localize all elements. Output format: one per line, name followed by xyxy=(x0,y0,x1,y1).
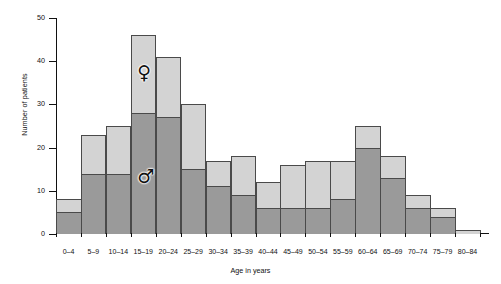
y-axis-tick-label: 0 xyxy=(0,229,45,238)
bar-segment-female xyxy=(56,199,82,213)
bar-segment-male xyxy=(156,117,182,234)
x-axis-tick xyxy=(330,233,331,237)
bar-segment-female xyxy=(256,182,282,209)
x-axis-tick xyxy=(455,233,456,237)
x-axis-tick-label: 60–64 xyxy=(355,248,380,255)
x-axis-tick-label: 25–29 xyxy=(181,248,206,255)
y-axis-tick-label: 20 xyxy=(0,143,45,152)
bar-segment-male xyxy=(81,174,107,234)
x-axis-tick-label: 35–39 xyxy=(231,248,256,255)
bar-5-9 xyxy=(81,135,107,234)
histogram-figure: Number of patients 01020304050 0–45–910–… xyxy=(0,0,501,284)
bar-segment-male xyxy=(305,208,331,234)
x-axis-tick xyxy=(256,233,257,237)
bar-55-59 xyxy=(330,161,356,234)
bar-40-44 xyxy=(256,182,282,234)
bar-75-79 xyxy=(430,208,456,234)
x-axis-tick xyxy=(106,233,107,237)
bar-25-29 xyxy=(181,104,207,234)
bar-segment-female xyxy=(206,161,232,188)
x-axis-tick xyxy=(206,233,207,237)
female-symbol: ♀ xyxy=(137,63,151,82)
bar-segment-female xyxy=(231,156,257,196)
x-axis-tick-label: 80–84 xyxy=(455,248,480,255)
bar-60-64 xyxy=(355,126,381,234)
x-axis-tick xyxy=(305,233,306,237)
x-axis-tick-label: 20–24 xyxy=(156,248,181,255)
x-axis-tick xyxy=(405,233,406,237)
bar-segment-female xyxy=(405,195,431,209)
bar-50-54 xyxy=(305,161,331,234)
bar-0-4 xyxy=(56,199,82,234)
y-axis-tick-label: 30 xyxy=(0,99,45,108)
x-axis-tick-label: 30–34 xyxy=(206,248,231,255)
x-axis-tick xyxy=(480,233,481,237)
bar-20-24 xyxy=(156,57,182,234)
bar-70-74 xyxy=(405,195,431,234)
bar-segment-male xyxy=(206,186,232,234)
bar-segment-female xyxy=(81,135,107,175)
x-axis-tick xyxy=(231,233,232,237)
x-axis-tick-label: 70–74 xyxy=(405,248,430,255)
x-axis-tick xyxy=(355,233,356,237)
bar-80-84 xyxy=(455,230,481,234)
x-axis-tick xyxy=(280,233,281,237)
bar-segment-female xyxy=(355,126,381,149)
bar-65-69 xyxy=(380,156,406,234)
bar-segment-female xyxy=(380,156,406,179)
x-axis-label: Age in years xyxy=(0,266,501,275)
bar-segment-female xyxy=(181,104,207,170)
y-axis-tick-label: 40 xyxy=(0,56,45,65)
x-axis-tick-label: 65–69 xyxy=(380,248,405,255)
x-axis-tick-label: 55–59 xyxy=(330,248,355,255)
x-axis-tick xyxy=(131,233,132,237)
x-axis-tick-label: 5–9 xyxy=(81,248,106,255)
x-axis-tick xyxy=(430,233,431,237)
y-axis-tick-label: 10 xyxy=(0,186,45,195)
x-axis-tick xyxy=(56,233,57,237)
bar-45-49 xyxy=(280,165,306,234)
bar-segment-female xyxy=(330,161,356,201)
bar-35-39 xyxy=(231,156,257,234)
x-axis-tick xyxy=(181,233,182,237)
x-axis-tick-label: 40–44 xyxy=(256,248,281,255)
bar-segment-male xyxy=(56,212,82,234)
y-axis-tick-label: 50 xyxy=(0,13,45,22)
bar-segment-female xyxy=(106,126,132,175)
x-axis-tick-label: 10–14 xyxy=(106,248,131,255)
bar-segment-male xyxy=(380,178,406,234)
x-axis-tick xyxy=(380,233,381,237)
x-axis-tick-label: 15–19 xyxy=(131,248,156,255)
bar-segment-male xyxy=(430,217,456,234)
bar-10-14 xyxy=(106,126,132,234)
bar-segment-male xyxy=(405,208,431,234)
bar-segment-male xyxy=(330,199,356,234)
bar-segment-female xyxy=(305,161,331,210)
bar-segment-male xyxy=(181,169,207,234)
bar-segment-male xyxy=(256,208,282,234)
bar-segment-female xyxy=(156,57,182,118)
x-axis-tick xyxy=(156,233,157,237)
bar-segment-female xyxy=(280,165,306,209)
bar-segment-male xyxy=(355,148,381,234)
bar-segment-male xyxy=(231,195,257,234)
plot-area xyxy=(56,18,480,234)
x-axis-tick-label: 45–49 xyxy=(280,248,305,255)
bar-segment-male xyxy=(106,174,132,234)
x-axis-tick xyxy=(81,233,82,237)
bar-segment-female xyxy=(455,230,481,234)
male-symbol: ♂ xyxy=(137,167,154,186)
bar-30-34 xyxy=(206,161,232,234)
x-axis-tick-label: 75–79 xyxy=(430,248,455,255)
x-axis-tick-label: 0–4 xyxy=(56,248,81,255)
x-axis-tick-label: 50–54 xyxy=(305,248,330,255)
bar-segment-male xyxy=(280,208,306,234)
